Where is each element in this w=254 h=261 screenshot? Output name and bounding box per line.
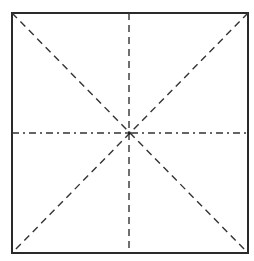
square-fold-diagram [0,0,254,261]
center-point [127,131,131,135]
